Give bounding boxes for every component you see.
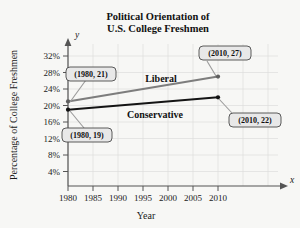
y-axis-title: Percentage of College Freshmen [8,50,19,180]
y-tick-label-4: 4% [48,167,61,177]
x-axis-title: Year [137,210,156,221]
series-label-liberal: Liberal [145,73,177,84]
y-tick-label-24: 24% [44,84,61,94]
y-tick-label-12: 12% [44,134,61,144]
series-label-conservative: Conservative [127,109,184,120]
annotation-conservative-2010-text: (2010, 22) [238,116,272,125]
x-tick-label-1995: 1995 [134,193,153,203]
chart-title-line-1: Political Orientation of [106,11,210,22]
x-tick-label-1980: 1980 [59,193,78,203]
y-axis-letter: y [74,30,80,40]
x-tick-label-1985: 1985 [84,193,103,203]
annotation-liberal-2010-text: (2010, 27) [208,49,242,58]
y-tick-label-8: 8% [48,150,61,160]
x-axis-letter: x [289,175,295,185]
x-tick-label-2005: 2005 [184,193,203,203]
x-tick-label-1990: 1990 [109,193,128,203]
x-tick-label-2010: 2010 [209,193,228,203]
x-tick-label-2000: 2000 [159,193,178,203]
y-tick-label-20: 20% [44,101,61,111]
annotation-conservative-1980-text: (1980, 19) [70,131,104,140]
data-point-conservative-1980 [66,108,70,112]
data-point-liberal-1980 [66,99,70,103]
y-tick-label-28: 28% [44,68,61,78]
annotation-liberal-1980-text: (1980, 21) [74,70,108,79]
chart-title-line-2: U.S. College Freshmen [107,23,209,34]
chart-container: Political Orientation of U.S. College Fr… [0,0,300,228]
y-tick-label-16: 16% [44,117,61,127]
y-tick-label-32: 32% [44,51,61,61]
data-point-liberal-2010 [216,75,220,79]
